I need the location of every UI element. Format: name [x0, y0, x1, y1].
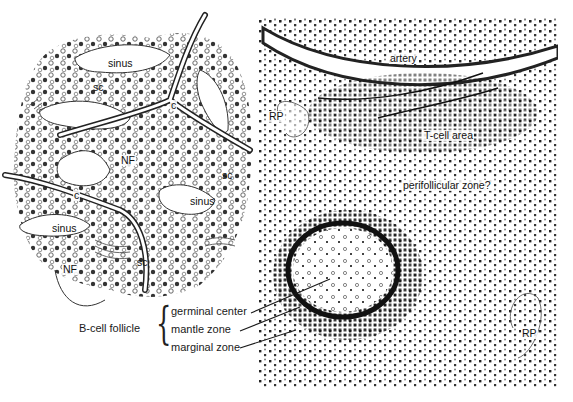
label-red-pulp: RP: [268, 111, 285, 122]
label-sinus: sinus: [108, 58, 133, 69]
right-panel-spleen: artery RP T-cell area perifollicular zon…: [258, 18, 558, 388]
legend-group-b-cell-follicle: B-cell follicle: [79, 323, 140, 334]
label-sc: sc: [222, 170, 233, 181]
label-capillary: c: [73, 190, 80, 201]
label-artery: artery: [389, 53, 418, 64]
label-sinus: sinus: [52, 223, 77, 234]
label-perifollicular-zone: perifollicular zone?: [402, 180, 492, 191]
label-t-cell-area: T-cell area: [423, 130, 474, 141]
label-capillary: c: [170, 100, 177, 111]
legend-item-marginal-zone: marginal zone: [171, 342, 240, 353]
spleen-drawing: [258, 18, 558, 388]
label-sc: sc: [137, 257, 148, 268]
legend-item-mantle-zone: mantle zone: [171, 324, 231, 335]
label-nf: NF: [62, 264, 78, 275]
left-panel-lymph-node: sinus sc c NF sc c sinus sinus NF sc: [0, 0, 260, 320]
label-red-pulp: RP: [521, 328, 538, 339]
label-nf: NF: [120, 155, 136, 166]
label-sc: sc: [93, 82, 104, 93]
label-sinus: sinus: [190, 196, 215, 207]
